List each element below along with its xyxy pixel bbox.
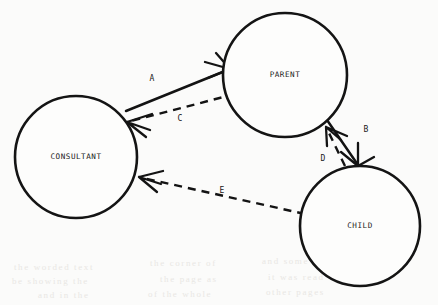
edge-e-label: E bbox=[220, 186, 225, 195]
edge-b-line bbox=[327, 120, 358, 165]
edge-a-label: A bbox=[150, 74, 155, 83]
node-consultant-label: CONSULTANT bbox=[50, 152, 101, 161]
node-consultant[interactable]: CONSULTANT bbox=[15, 96, 137, 218]
edge-d[interactable]: D bbox=[321, 127, 347, 166]
node-child-label: CHILD bbox=[347, 221, 373, 230]
relationship-diagram: A C B D E CONSULTANT bbox=[0, 0, 438, 305]
edge-c-label: C bbox=[178, 114, 183, 123]
edge-e-arrowhead bbox=[139, 171, 163, 192]
diagram-canvas: the worded textthe corner ofand some ofb… bbox=[0, 0, 438, 305]
edge-b-label: B bbox=[364, 125, 369, 134]
edge-c-line bbox=[131, 94, 235, 121]
edge-e[interactable]: E bbox=[139, 171, 305, 214]
edge-e-line bbox=[143, 178, 305, 214]
edge-b[interactable]: B bbox=[327, 120, 374, 166]
edge-a[interactable]: A bbox=[126, 53, 230, 111]
node-parent[interactable]: PARENT bbox=[223, 13, 347, 137]
edge-c[interactable]: C bbox=[127, 94, 235, 137]
edge-d-label: D bbox=[321, 154, 326, 163]
node-parent-label: PARENT bbox=[270, 70, 301, 79]
node-child[interactable]: CHILD bbox=[300, 166, 420, 286]
